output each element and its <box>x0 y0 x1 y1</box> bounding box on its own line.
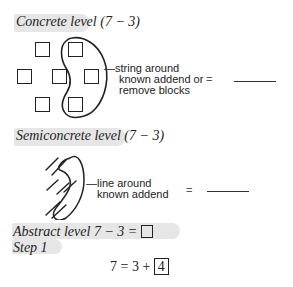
annotation-line: remove blocks <box>104 85 203 96</box>
abstract-heading: Abstract level 7 − 3 = <box>13 224 153 240</box>
annotation-line: known addend <box>86 189 169 200</box>
step-equation-text: 7 = 3 + <box>110 259 150 274</box>
semiconcrete-annotation: —line around known addend <box>86 178 169 200</box>
concrete-answer-blank <box>234 81 276 82</box>
abstract-heading-label: Abstract level <box>13 224 90 239</box>
abstract-expression: 7 − 3 = <box>94 224 137 239</box>
step-label: Step 1 <box>13 240 48 256</box>
step-answer-box: 4 <box>154 258 169 275</box>
concrete-annotation: —string around known addend or remove bl… <box>104 63 203 96</box>
semiconcrete-heading-label: Semiconcrete level <box>16 128 121 143</box>
semiconcrete-equals: = <box>186 184 192 196</box>
concrete-equals: = <box>206 73 212 85</box>
abstract-answer-box <box>141 225 153 238</box>
semiconcrete-expression: (7 − 3) <box>124 128 164 143</box>
semiconcrete-heading: Semiconcrete level (7 − 3) <box>16 128 164 144</box>
semiconcrete-answer-blank <box>207 191 249 192</box>
step-equation: 7 = 3 + 4 <box>110 258 169 275</box>
